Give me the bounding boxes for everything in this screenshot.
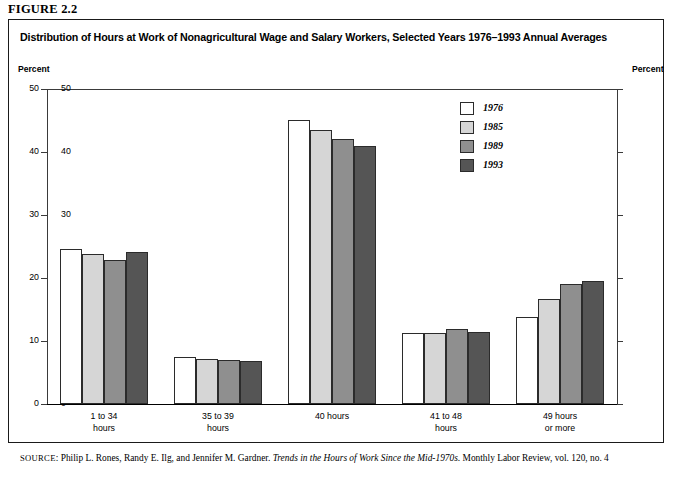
bar-1985 — [82, 254, 104, 404]
bar-1985 — [310, 130, 332, 404]
bar-group — [516, 89, 604, 404]
bar-1976 — [288, 120, 310, 404]
y-tick-r-10 — [617, 341, 623, 342]
y-tick-l-20 — [41, 278, 47, 279]
figure-container: FIGURE 2.2 Distribution of Hours at Work… — [0, 0, 674, 482]
y-tick-label-l-20: 20 — [17, 273, 39, 282]
bar-1985 — [424, 333, 446, 404]
y-tick-l-50 — [41, 89, 47, 90]
bar-1976 — [402, 333, 424, 404]
source-note: SOURCE: Philip L. Rones, Randy E. Ilg, a… — [20, 452, 654, 465]
plot-area: 00101020203030404050501 to 34 hours35 to… — [47, 89, 617, 404]
chart-title: Distribution of Hours at Work of Nonagri… — [20, 31, 607, 43]
legend-label-1989: 1989 — [483, 140, 503, 151]
x-category-label: 40 hours — [275, 411, 389, 423]
bar-1989 — [218, 360, 240, 404]
legend-label-1993: 1993 — [483, 159, 503, 170]
source-work-title: Trends in the Hours of Work Since the Mi… — [273, 453, 458, 463]
bar-1976 — [174, 357, 196, 404]
y-tick-label-l-50: 50 — [17, 84, 39, 93]
y-tick-r-0 — [617, 404, 623, 405]
bar-1993 — [354, 146, 376, 404]
legend-label-1985: 1985 — [483, 121, 503, 132]
legend-swatch-1989 — [460, 140, 474, 153]
y-tick-label-l-30: 30 — [17, 210, 39, 219]
bar-group — [174, 89, 262, 404]
y-axis-left — [47, 89, 48, 404]
y-tick-r-30 — [617, 215, 623, 216]
bar-1985 — [538, 299, 560, 404]
y-axis-right — [617, 89, 618, 404]
y-tick-r-20 — [617, 278, 623, 279]
y-tick-label-l-0: 0 — [17, 399, 39, 408]
bar-1989 — [332, 139, 354, 404]
y-axis-unit-right: Percent — [632, 64, 664, 74]
y-tick-l-30 — [41, 215, 47, 216]
bar-1976 — [516, 317, 538, 404]
y-axis-unit-left: Percent — [18, 64, 50, 74]
bar-group — [288, 89, 376, 404]
x-category-label: 41 to 48 hours — [389, 411, 503, 434]
y-tick-r-40 — [617, 152, 623, 153]
bar-1989 — [446, 329, 468, 404]
bar-1976 — [60, 249, 82, 404]
legend-label-1976: 1976 — [483, 102, 503, 113]
figure-number-label: FIGURE 2.2 — [8, 2, 77, 17]
y-tick-label-l-40: 40 — [17, 147, 39, 156]
bar-1989 — [104, 260, 126, 404]
x-axis-baseline — [46, 404, 618, 405]
source-publication: . Monthly Labor Review, vol. 120, no. 4 — [458, 453, 609, 463]
y-tick-label-l-10: 10 — [17, 336, 39, 345]
bar-1993 — [126, 252, 148, 404]
legend-swatch-1976 — [460, 102, 474, 115]
y-tick-l-10 — [41, 341, 47, 342]
legend-swatch-1993 — [460, 159, 474, 172]
bar-1993 — [468, 332, 490, 404]
source-authors: : Philip L. Rones, Randy E. Ilg, and Jen… — [56, 453, 273, 463]
x-category-label: 49 hours or more — [503, 411, 617, 434]
bar-1989 — [560, 284, 582, 404]
y-tick-l-40 — [41, 152, 47, 153]
bar-1993 — [582, 281, 604, 404]
y-tick-r-50 — [617, 89, 623, 90]
y-tick-l-0 — [41, 404, 47, 405]
bar-group — [402, 89, 490, 404]
bar-group — [60, 89, 148, 404]
bar-1985 — [196, 359, 218, 404]
legend-swatch-1985 — [460, 121, 474, 134]
source-prefix: SOURCE — [20, 453, 56, 463]
x-category-label: 1 to 34 hours — [47, 411, 161, 434]
x-category-label: 35 to 39 hours — [161, 411, 275, 434]
bar-1993 — [240, 361, 262, 404]
